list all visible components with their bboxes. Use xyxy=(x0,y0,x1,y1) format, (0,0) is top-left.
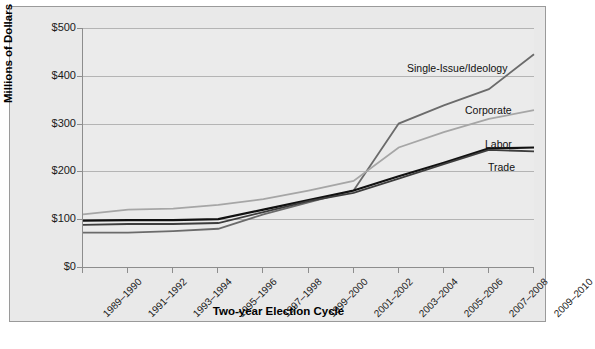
y-tick-mark xyxy=(77,124,82,125)
x-tick-mark xyxy=(82,268,83,273)
x-tick-mark xyxy=(308,268,309,273)
x-tick-mark xyxy=(398,268,399,273)
y-tick-mark xyxy=(77,76,82,77)
y-tick-label: $100 xyxy=(34,212,76,224)
x-tick-mark xyxy=(353,268,354,273)
series-label: Corporate xyxy=(465,104,512,116)
y-tick-label: $0 xyxy=(34,260,76,272)
y-tick-label: $300 xyxy=(34,117,76,129)
x-axis-title: Two-year Election Cycle xyxy=(0,305,557,317)
series-line xyxy=(83,54,534,232)
x-tick-mark xyxy=(172,268,173,273)
series-line xyxy=(83,110,534,214)
series-line xyxy=(83,150,534,225)
y-tick-label: $500 xyxy=(34,21,76,33)
y-axis-title: Millions of Dollars xyxy=(2,4,14,103)
x-tick-mark xyxy=(443,268,444,273)
x-tick-mark xyxy=(127,268,128,273)
series-label: Single-Issue/Ideology xyxy=(407,62,507,74)
chart-panel: Millions of Dollars $500$400$300$200$100… xyxy=(9,6,546,322)
x-tick-mark xyxy=(262,268,263,273)
series-label: Trade xyxy=(488,161,515,173)
x-tick-mark xyxy=(217,268,218,273)
x-tick-mark xyxy=(533,268,534,273)
x-tick-label: 2009–2010 xyxy=(552,276,595,319)
y-tick-mark xyxy=(77,28,82,29)
series-label: Labor xyxy=(485,138,512,150)
y-tick-label: $200 xyxy=(34,164,76,176)
y-tick-mark xyxy=(77,171,82,172)
y-tick-mark xyxy=(77,219,82,220)
x-tick-mark xyxy=(488,268,489,273)
y-tick-label: $400 xyxy=(34,69,76,81)
